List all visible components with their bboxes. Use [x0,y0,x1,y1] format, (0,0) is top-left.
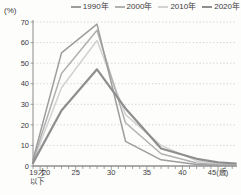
series-line-2020年 [33,69,236,163]
x-tick-label: 30 [107,168,115,177]
y-tick-label: 50 [21,59,29,68]
x-tick-label: 20 [42,168,50,177]
y-tick-label: 40 [21,79,29,88]
y-tick-label: 30 [21,100,29,109]
y-tick-label: 20 [21,121,29,130]
line-plot: 010203040506070(%)19才以下202530354045(歳) [0,0,241,195]
x-tick-label: 25 [72,168,80,177]
x-tick-label: 45(歳) [208,167,229,177]
x-tick-label-line2: 以下 [30,177,45,186]
series-line-1990年 [33,24,236,166]
x-tick-label: 35 [143,168,151,177]
age-distribution-chart: 1990年2000年2010年2020年 010203040506070(%)1… [0,0,241,195]
y-tick-label: 60 [21,38,29,47]
y-tick-label: 10 [21,141,29,150]
x-tick-label: 40 [178,168,186,177]
y-tick-label: 70 [21,18,29,27]
y-axis-unit-label: (%) [4,6,17,15]
